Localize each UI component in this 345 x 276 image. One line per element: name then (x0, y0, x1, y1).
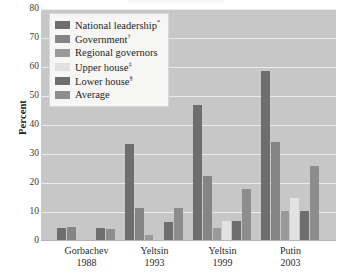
y-axis-tick-label: 0 (3, 236, 39, 246)
y-axis-tick-label: 30 (3, 149, 39, 159)
legend-footnote-marker: ‡ (128, 60, 131, 67)
bar (300, 211, 309, 241)
legend-item: Average (55, 88, 160, 102)
legend-swatch (55, 49, 70, 57)
y-axis-tick-label: 50 (3, 91, 39, 101)
x-axis-leader-name: Yeltsin (141, 245, 169, 256)
bar (310, 166, 319, 241)
legend-item: Upper house‡ (55, 60, 160, 74)
legend-swatch (55, 35, 70, 43)
y-axis-tick-label: 80 (3, 4, 39, 14)
x-axis-group-label: Yeltsin1993 (121, 245, 189, 269)
legend-item: Government† (55, 32, 160, 46)
y-axis-tick-label: 10 (3, 207, 39, 217)
x-axis-year: 2003 (257, 257, 325, 269)
y-axis-tick-label: 70 (3, 33, 39, 43)
x-axis-leader-name: Gorbachev (65, 245, 109, 256)
bar (135, 208, 144, 241)
x-axis-baseline (41, 240, 336, 241)
bar (67, 227, 76, 242)
x-axis-leader-name: Yeltsin (209, 245, 237, 256)
bar (290, 198, 299, 242)
bar-chart: Percent 01020304050607080 Gorbachev1988Y… (0, 0, 345, 276)
y-axis-tick-labels: 01020304050607080 (0, 0, 39, 276)
legend-label: Government† (75, 33, 131, 45)
x-axis-year: 1999 (189, 257, 257, 269)
bar (193, 105, 202, 241)
bar (125, 144, 134, 241)
legend-swatch (55, 91, 70, 99)
legend-item: Regional governors (55, 46, 160, 60)
legend-swatch (55, 21, 70, 29)
bar (203, 176, 212, 241)
legend-label: Regional governors (75, 48, 158, 59)
bar-group (261, 9, 320, 241)
bar (232, 221, 241, 241)
x-axis-year: 1988 (53, 257, 121, 269)
x-axis-group-label: Putin2003 (257, 245, 325, 269)
bar (271, 142, 280, 241)
legend-label: Average (75, 90, 110, 101)
legend-item: Lower house§ (55, 74, 160, 88)
x-axis-group-label: Yeltsin1999 (189, 245, 257, 269)
chart-legend: National leadership*Government†Regional … (49, 13, 169, 107)
bar (281, 211, 290, 241)
legend-label: Lower house§ (75, 75, 133, 87)
bar (174, 208, 183, 241)
y-axis-tick-label: 60 (3, 62, 39, 72)
legend-footnote-marker: § (130, 74, 133, 81)
legend-swatch (55, 77, 70, 85)
bar (261, 71, 270, 241)
legend-item: National leadership* (55, 18, 160, 32)
y-axis-tick-label: 40 (3, 120, 39, 130)
legend-label: Upper house‡ (75, 61, 132, 73)
bar (164, 222, 173, 241)
legend-footnote-marker: † (128, 32, 131, 39)
x-axis-year: 1993 (121, 257, 189, 269)
bar (222, 221, 231, 241)
page-top-fade (128, 0, 224, 5)
bar (242, 189, 251, 241)
legend-footnote-marker: * (157, 18, 160, 25)
legend-label: National leadership* (75, 19, 160, 31)
y-axis-tick-label: 20 (3, 178, 39, 188)
x-axis-group-label: Gorbachev1988 (53, 245, 121, 269)
bar-group (193, 9, 252, 241)
legend-swatch (55, 63, 70, 71)
x-axis-leader-name: Putin (280, 245, 301, 256)
